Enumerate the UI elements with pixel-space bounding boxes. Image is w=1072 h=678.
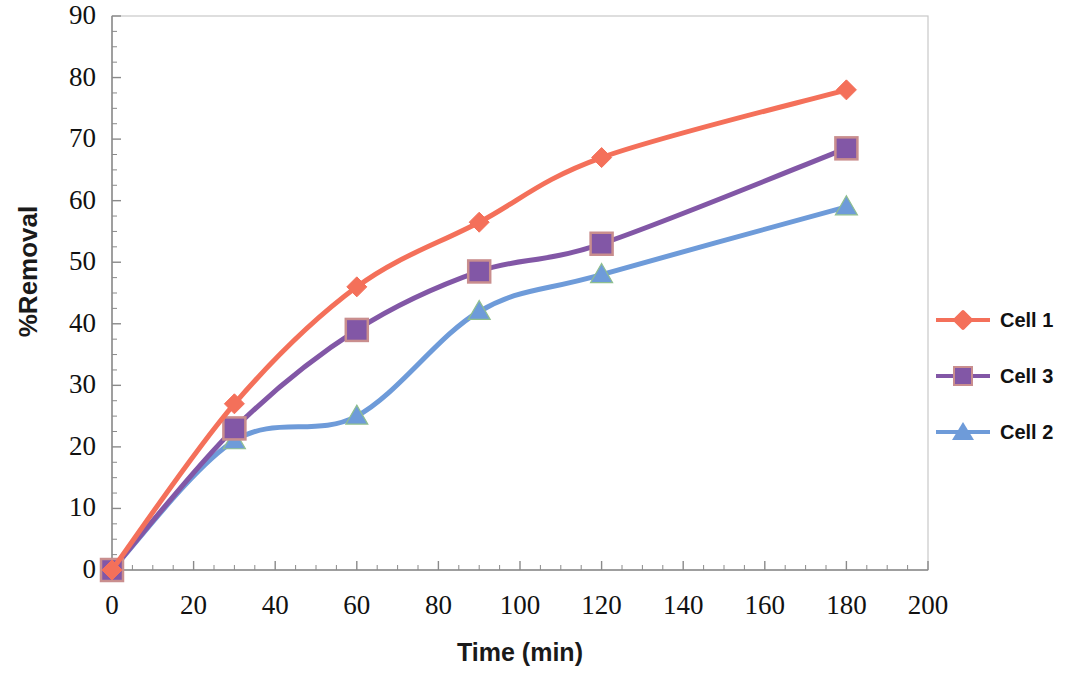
y-tick-label: 60 — [36, 187, 96, 214]
x-tick-label: 100 — [480, 592, 560, 619]
line-chart: %Removal 0102030405060708090 02040608010… — [0, 0, 1072, 678]
data-point-marker — [346, 405, 368, 424]
plot-area — [0, 0, 1072, 678]
data-point-marker — [223, 417, 245, 439]
y-tick-label: 80 — [36, 64, 96, 91]
diamond-marker-icon — [952, 309, 973, 330]
chart-legend: Cell 1Cell 3Cell 2 — [934, 292, 1072, 460]
y-tick-label: 10 — [36, 494, 96, 521]
x-tick-label: 20 — [154, 592, 234, 619]
y-tick-label: 50 — [36, 248, 96, 275]
y-axis-ticks — [112, 16, 121, 570]
data-point-marker — [346, 319, 368, 341]
x-tick-label: 80 — [398, 592, 478, 619]
x-tick-label: 60 — [317, 592, 397, 619]
x-tick-label: 180 — [806, 592, 886, 619]
data-point-marker — [469, 212, 489, 232]
legend-item-cell-3[interactable]: Cell 3 — [934, 348, 1072, 404]
data-point-marker — [468, 260, 490, 282]
data-point-marker — [835, 137, 857, 159]
data-point-marker — [835, 196, 857, 215]
legend-item-cell-2[interactable]: Cell 2 — [934, 404, 1072, 460]
x-tick-label: 0 — [72, 592, 152, 619]
legend-item-cell-1[interactable]: Cell 1 — [934, 292, 1072, 348]
y-tick-label: 40 — [36, 310, 96, 337]
legend-swatch — [934, 305, 992, 335]
x-tick-label: 40 — [235, 592, 315, 619]
y-tick-label: 20 — [36, 433, 96, 460]
x-tick-label: 160 — [725, 592, 805, 619]
data-point-marker — [592, 148, 612, 168]
x-axis-ticks — [112, 561, 928, 570]
x-tick-label: 120 — [562, 592, 642, 619]
legend-label: Cell 1 — [1000, 309, 1053, 332]
triangle-marker-icon — [952, 422, 974, 440]
y-tick-label: 70 — [36, 125, 96, 152]
legend-swatch — [934, 417, 992, 447]
x-tick-label: 200 — [888, 592, 968, 619]
series-line — [112, 90, 846, 570]
series-cell-3 — [101, 137, 857, 581]
y-tick-label: 30 — [36, 371, 96, 398]
legend-swatch — [934, 361, 992, 391]
data-point-marker — [591, 233, 613, 255]
series-cell-2 — [101, 196, 857, 578]
legend-label: Cell 3 — [1000, 365, 1053, 388]
square-marker-icon — [953, 366, 973, 386]
series-cell-1 — [102, 80, 856, 580]
x-axis-title: Time (min) — [112, 638, 928, 667]
data-point-marker — [836, 80, 856, 100]
y-tick-label: 0 — [36, 556, 96, 583]
legend-label: Cell 2 — [1000, 421, 1053, 444]
x-tick-label: 140 — [643, 592, 723, 619]
y-tick-label: 90 — [36, 2, 96, 29]
